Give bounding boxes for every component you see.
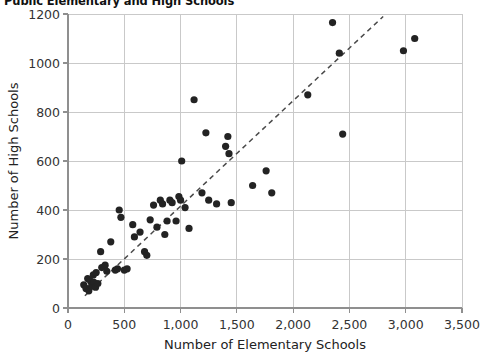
data-point (228, 199, 235, 206)
data-point (185, 225, 192, 232)
trendline-layer (85, 16, 383, 295)
x-tick-label: 2,500 (332, 317, 368, 332)
data-point (198, 189, 205, 196)
x-tick-label: 2,000 (275, 317, 311, 332)
data-point (107, 238, 114, 245)
y-tick-label: 800 (36, 105, 60, 120)
data-point (304, 91, 311, 98)
data-point (336, 50, 343, 57)
data-point (205, 197, 212, 204)
y-tick-label: 1200 (28, 7, 60, 22)
data-point (116, 206, 123, 213)
data-points-layer (80, 19, 418, 294)
data-point (329, 19, 336, 26)
data-point (169, 199, 176, 206)
x-axis-title: Number of Elementary Schools (164, 337, 366, 352)
trend-line (85, 16, 383, 295)
data-point (224, 133, 231, 140)
data-point (181, 204, 188, 211)
data-point (163, 217, 170, 224)
data-point (94, 280, 101, 287)
data-point (102, 262, 109, 269)
data-point (117, 214, 124, 221)
y-tick-label: 200 (36, 252, 60, 267)
data-point (190, 96, 197, 103)
x-tick-label: 1,500 (219, 317, 255, 332)
data-point (339, 130, 346, 137)
data-point (161, 231, 168, 238)
data-point (172, 217, 179, 224)
x-tick-label: 3,500 (444, 317, 480, 332)
data-point (150, 202, 157, 209)
y-tick-label: 1000 (28, 56, 60, 71)
data-point (268, 189, 275, 196)
data-point (202, 129, 209, 136)
y-tick-label: 0 (52, 301, 60, 316)
x-tick-label: 500 (112, 317, 136, 332)
data-point (400, 47, 407, 54)
data-point (97, 248, 104, 255)
data-point (222, 143, 229, 150)
data-point (114, 265, 121, 272)
grid-layer (68, 14, 462, 308)
data-point (263, 167, 270, 174)
data-point (124, 265, 131, 272)
data-point (159, 200, 166, 207)
chart-figure: Public Elementary and High Schools 02004… (0, 0, 485, 359)
data-point (153, 224, 160, 231)
y-axis-title: Number of High Schools (6, 82, 21, 239)
data-point (147, 216, 154, 223)
data-point (177, 197, 184, 204)
x-tick-label: 0 (64, 317, 72, 332)
data-point (136, 228, 143, 235)
data-point (178, 157, 185, 164)
y-tick-label: 600 (36, 154, 60, 169)
data-point (129, 221, 136, 228)
data-point (213, 200, 220, 207)
data-point (103, 268, 110, 275)
data-point (225, 150, 232, 157)
data-point (249, 182, 256, 189)
x-tick-label: 3,000 (388, 317, 424, 332)
x-tick-label: 1,000 (163, 317, 199, 332)
data-point (143, 252, 150, 259)
y-tick-label: 400 (36, 203, 60, 218)
scatter-plot: 02004006008001000120005001,0001,5002,000… (0, 0, 485, 359)
data-point (93, 269, 100, 276)
data-point (131, 233, 138, 240)
data-point (411, 35, 418, 42)
